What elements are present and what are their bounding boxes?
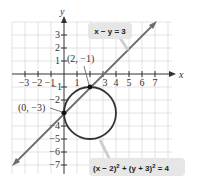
y-axis-arrow-icon xyxy=(61,16,67,23)
svg-text:4: 4 xyxy=(114,77,119,88)
leader-point-a xyxy=(84,66,89,85)
line-eq-label: x − y = 3 xyxy=(94,27,126,36)
svg-text:−7: −7 xyxy=(49,159,60,170)
svg-text:−2: −2 xyxy=(32,77,43,88)
svg-text:3: 3 xyxy=(103,77,108,88)
svg-text:1: 1 xyxy=(55,55,60,66)
circle-eq-label: (x − 2)2 + (y + 3)2 = 4 xyxy=(93,163,170,173)
point-a-label: (2, −1) xyxy=(67,53,94,65)
leader-point-b xyxy=(50,108,62,112)
svg-text:3: 3 xyxy=(55,29,60,40)
svg-text:−2: −2 xyxy=(49,94,60,105)
grid xyxy=(12,22,172,174)
point-0-neg3 xyxy=(62,111,67,116)
svg-text:5: 5 xyxy=(127,77,132,88)
svg-text:−6: −6 xyxy=(49,146,60,157)
point-2-neg1 xyxy=(88,85,93,90)
svg-text:1: 1 xyxy=(75,77,80,88)
svg-text:2: 2 xyxy=(55,42,60,53)
svg-text:7: 7 xyxy=(153,77,158,88)
svg-text:−1: −1 xyxy=(51,81,62,92)
x-axis-arrow-icon xyxy=(169,71,176,77)
svg-text:−5: −5 xyxy=(49,133,60,144)
y-axis-label: y xyxy=(59,6,65,17)
svg-text:6: 6 xyxy=(140,77,145,88)
point-b-label: (0, −3) xyxy=(18,102,45,114)
line-curve xyxy=(16,25,153,162)
leader-circle-eq xyxy=(100,140,110,160)
axes xyxy=(12,20,172,174)
svg-text:−3: −3 xyxy=(19,77,30,88)
x-axis-label: x xyxy=(178,69,184,80)
graph: x y −3 −2 −1 1 3 4 5 6 7 3 2 1 −1 −2 −4 … xyxy=(0,0,198,188)
svg-text:−4: −4 xyxy=(49,120,60,131)
